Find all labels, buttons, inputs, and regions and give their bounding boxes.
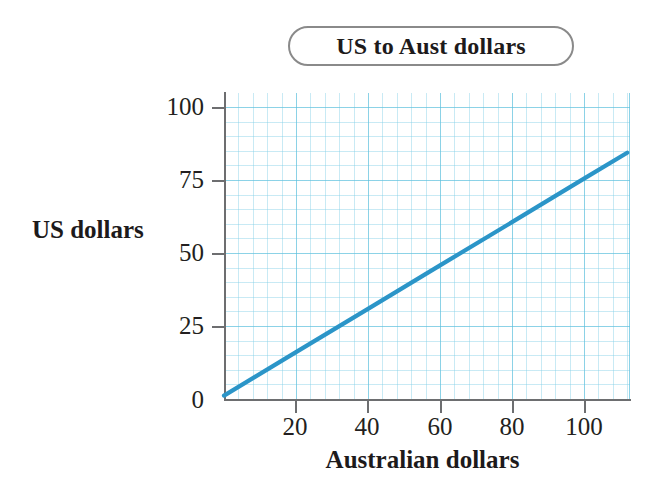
y-tick-mark-100	[212, 107, 225, 109]
x-tick-mark-40	[367, 400, 369, 413]
y-tick-mark-50	[212, 253, 225, 255]
plot-grid-area	[225, 93, 630, 400]
x-tick-mark-100	[584, 400, 586, 413]
x-tick-label-20: 20	[255, 413, 335, 441]
x-tick-label-60: 60	[400, 413, 480, 441]
y-axis-line	[224, 92, 226, 401]
y-tick-label-0: 0	[134, 387, 204, 412]
x-tick-mark-20	[295, 400, 297, 413]
x-tick-mark-60	[440, 400, 442, 413]
y-tick-label-50: 50	[134, 240, 204, 265]
y-tick-label-100: 100	[134, 94, 204, 119]
chart-title-box: US to Aust dollars	[288, 26, 574, 66]
y-tick-mark-75	[212, 180, 225, 182]
y-tick-label-75: 75	[134, 167, 204, 192]
x-axis-line	[224, 399, 631, 401]
chart-title: US to Aust dollars	[336, 33, 526, 60]
y-tick-mark-25	[212, 326, 225, 328]
x-axis-title-text: Australian dollars	[326, 446, 520, 474]
x-tick-label-40: 40	[327, 413, 407, 441]
y-tick-label-25: 25	[134, 313, 204, 338]
x-tick-label-80: 80	[472, 413, 552, 441]
x-tick-mark-80	[512, 400, 514, 413]
x-axis-title: Australian dollars	[0, 446, 663, 474]
y-axis-title: US dollars	[32, 216, 144, 244]
x-tick-label-100: 100	[544, 413, 624, 441]
